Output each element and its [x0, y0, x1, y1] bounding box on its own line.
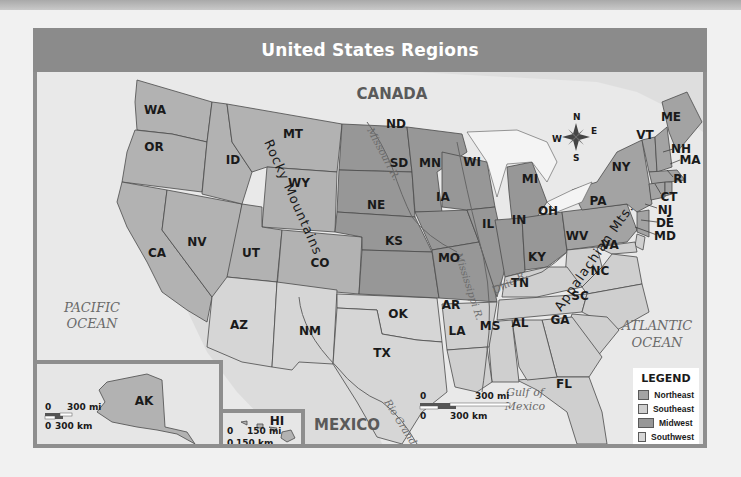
page-top-band: [0, 0, 741, 10]
label-ga: GA: [550, 313, 570, 327]
label-mt: MT: [283, 127, 304, 141]
legend-swatch-northeast: [638, 390, 649, 400]
label-id: ID: [226, 153, 240, 167]
label-md: MD: [654, 229, 676, 243]
legend-label: Southeast: [653, 404, 694, 414]
compass-n: N: [573, 112, 581, 122]
legend-label: Northeast: [654, 390, 694, 400]
atlantic-ocean-label-1: ATLANTIC: [621, 318, 693, 333]
label-ct: CT: [661, 190, 679, 204]
label-ky: KY: [528, 250, 546, 264]
label-ne: NE: [367, 198, 385, 212]
legend-swatch-southwest: [638, 432, 646, 442]
label-tx: TX: [373, 346, 391, 360]
pacific-ocean-label-2: OCEAN: [67, 316, 118, 331]
legend-label: Southwest: [651, 432, 694, 442]
hawaii-inset: HI 0 150 mi 0 150 km: [221, 411, 303, 444]
label-sc: SC: [571, 289, 589, 303]
main-scale-mi-end: 300 mi: [475, 391, 509, 401]
label-mi: MI: [522, 172, 538, 186]
label-pa: PA: [590, 194, 608, 208]
label-ma: MA: [679, 153, 701, 167]
legend: LEGEND Northeast Southeast Midwest South…: [633, 368, 699, 444]
label-va: VA: [601, 238, 619, 252]
label-nd: ND: [386, 117, 406, 131]
label-ny: NY: [612, 160, 631, 174]
label-mn: MN: [419, 156, 441, 170]
main-scale-mi-start: 0: [420, 391, 426, 401]
compass-e: E: [591, 126, 597, 136]
pacific-ocean-label-1: PACIFIC: [63, 300, 120, 315]
label-ia: IA: [436, 190, 450, 204]
label-tn: TN: [511, 276, 529, 290]
map-area: CANADA MEXICO PACIFIC OCEAN ATLANTIC OCE…: [37, 72, 703, 444]
gulf-of-mexico-label-1: Gulf of: [506, 386, 546, 399]
label-mo: MO: [438, 251, 460, 265]
label-de: DE: [656, 216, 674, 230]
label-wi: WI: [463, 155, 481, 169]
hi-scale-km-end: 150 km: [236, 438, 273, 444]
legend-label: Midwest: [659, 418, 693, 428]
label-ar: AR: [442, 298, 461, 312]
compass-rose: N S E W: [552, 112, 597, 163]
mexico-label: MEXICO: [314, 416, 380, 434]
legend-item-southeast: Southeast: [638, 402, 694, 416]
label-wy: WY: [288, 176, 310, 190]
label-ca: CA: [148, 246, 167, 260]
label-nm: NM: [299, 324, 321, 338]
canada-label: CANADA: [357, 85, 428, 103]
label-wa: WA: [144, 103, 167, 117]
label-nv: NV: [187, 235, 207, 249]
legend-title: LEGEND: [638, 372, 694, 385]
map-title: United States Regions: [261, 40, 479, 60]
us-regions-map: CANADA MEXICO PACIFIC OCEAN ATLANTIC OCE…: [37, 72, 703, 444]
hi-scale-km-start: 0: [227, 438, 233, 444]
legend-swatch-midwest: [638, 418, 654, 428]
label-nc: NC: [591, 264, 610, 278]
label-or: OR: [144, 140, 163, 154]
hi-scale-mi-start: 0: [227, 426, 233, 436]
label-al: AL: [512, 316, 529, 330]
compass-s: S: [573, 153, 579, 163]
ak-scale-mi-end: 300 mi: [67, 402, 101, 412]
state-nj[interactable]: [637, 210, 649, 237]
label-nj: NJ: [658, 203, 673, 217]
label-ok: OK: [388, 307, 408, 321]
compass-w: W: [552, 134, 562, 144]
main-scale-km-start: 0: [420, 411, 426, 421]
label-ks: KS: [385, 234, 403, 248]
label-az: AZ: [230, 318, 248, 332]
legend-item-northeast: Northeast: [638, 388, 694, 402]
label-wv: WV: [566, 229, 589, 243]
ak-scale-km-end: 300 km: [55, 421, 92, 431]
hi-scale-mi-end: 150 mi: [247, 426, 281, 436]
label-oh: OH: [538, 204, 558, 218]
alaska-inset: AK 0 300 mi 0 300 km: [37, 362, 221, 444]
label-ms: MS: [480, 319, 501, 333]
label-in: IN: [512, 213, 527, 227]
label-il: IL: [482, 217, 494, 231]
label-ut: UT: [242, 246, 261, 260]
state-or[interactable]: [122, 130, 207, 192]
map-frame: United States Regions: [33, 28, 707, 448]
label-ak: AK: [135, 394, 154, 408]
label-co: CO: [310, 256, 329, 270]
legend-item-midwest: Midwest: [638, 416, 694, 430]
title-bar: United States Regions: [33, 28, 707, 72]
state-ks[interactable]: [359, 250, 439, 298]
label-fl: FL: [556, 377, 572, 391]
state-ny[interactable]: [572, 140, 652, 212]
label-ri: RI: [673, 172, 687, 186]
ak-scale-mi-start: 0: [45, 402, 51, 412]
legend-swatch-southeast: [638, 404, 648, 414]
main-scale-km-end: 300 km: [450, 411, 487, 421]
gulf-of-mexico-label-2: Mexico: [504, 400, 546, 413]
ak-scale-km-start: 0: [45, 421, 51, 431]
legend-item-southwest: Southwest: [638, 430, 694, 444]
atlantic-ocean-label-2: OCEAN: [632, 335, 683, 350]
label-la: LA: [449, 324, 467, 338]
label-vt: VT: [636, 128, 654, 142]
label-sd: SD: [390, 156, 409, 170]
label-me: ME: [661, 110, 681, 124]
